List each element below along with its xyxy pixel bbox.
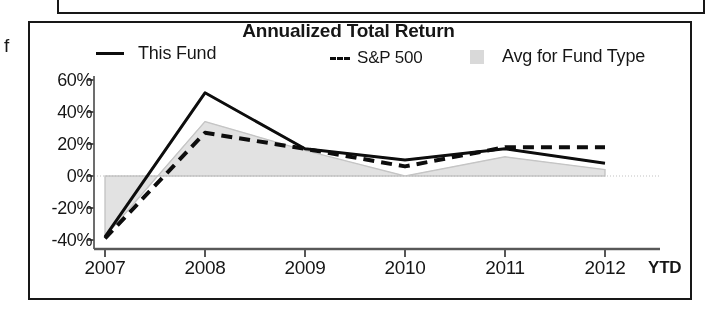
x-axis-ytd-label: YTD <box>648 258 681 277</box>
x-axis-tick-label: 2008 <box>160 258 250 277</box>
x-axis-tick-label: 2009 <box>260 258 350 277</box>
x-axis-tick-label: 2007 <box>60 258 150 277</box>
x-axis-tick-label: 2012 <box>560 258 650 277</box>
x-axis-tick-label: 2010 <box>360 258 450 277</box>
x-axis-tick-label: 2011 <box>460 258 550 277</box>
